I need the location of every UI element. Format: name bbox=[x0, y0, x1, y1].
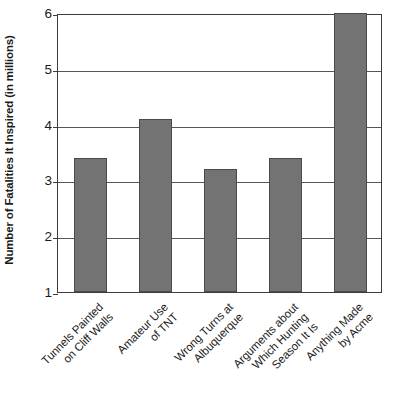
bar-chart: Number of Fatalities It Inspired (in mil… bbox=[0, 0, 396, 417]
y-axis-title: Number of Fatalities It Inspired (in mil… bbox=[0, 0, 18, 300]
y-axis-tick-label: 2 bbox=[30, 230, 52, 244]
x-axis-category-labels: Tunnels Painted on Cliff WallsAmateur Us… bbox=[0, 296, 396, 417]
y-axis-tick-label: 3 bbox=[30, 175, 52, 189]
y-axis-tick-mark bbox=[53, 294, 58, 295]
y-axis-tick-label: 6 bbox=[30, 7, 52, 21]
y-axis-tick-label: 4 bbox=[30, 119, 52, 133]
bar bbox=[74, 158, 107, 292]
y-axis-tick-labels: 123456 bbox=[30, 0, 52, 300]
y-axis-tick-label: 5 bbox=[30, 63, 52, 77]
